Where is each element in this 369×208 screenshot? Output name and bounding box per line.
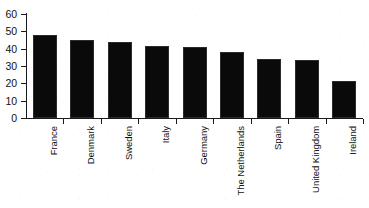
bar [108,42,132,118]
x-axis-tick [251,119,252,124]
bar [220,52,244,118]
bar [257,59,281,118]
x-axis-category-label: The Netherlands [236,126,246,195]
x-axis-category-label: Germany [199,126,209,165]
y-axis-tick-label: 50 [0,26,17,36]
y-axis-tick-label: 30 [0,61,17,71]
plot-area [26,14,363,118]
x-axis-category-label: Italy [161,126,171,143]
x-axis-tick [288,119,289,124]
x-axis-tick [138,119,139,124]
x-axis-tick [101,119,102,124]
y-axis-tick-label: 40 [0,44,17,54]
x-axis-tick [176,119,177,124]
x-axis-category-label: Denmark [86,126,96,164]
bar-chart: 6050403020100 FranceDenmarkSwedenItalyGe… [0,0,369,208]
x-axis-category-label: Sweden [124,126,134,160]
y-axis-tick-label: 10 [0,96,17,106]
bar [70,40,94,118]
y-axis-tick-label: 0 [0,113,17,123]
x-axis-tick [213,119,214,124]
x-axis-tick [63,119,64,124]
bar [183,47,207,118]
x-axis-line [26,118,363,119]
x-axis-category-label: Ireland [348,126,358,155]
y-axis-tick-label: 60 [0,9,17,19]
bar [33,35,57,118]
y-axis-tick-label: 20 [0,78,17,88]
bar [332,81,356,118]
x-axis-category-label: United Kingdom [311,126,321,193]
x-axis-tick [326,119,327,124]
bar [145,46,169,118]
x-axis-category-label: Spain [273,126,283,150]
x-axis-tick [363,119,364,124]
x-axis-category-label: France [49,126,59,155]
bar [295,60,319,118]
